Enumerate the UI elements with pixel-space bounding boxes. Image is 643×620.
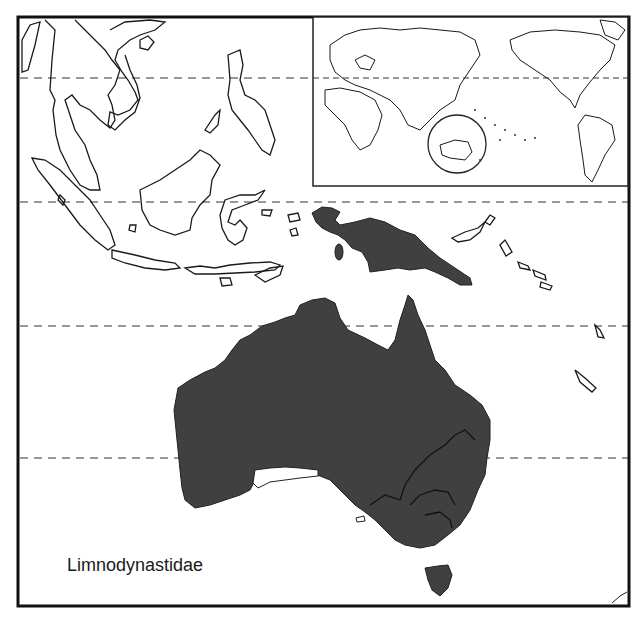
inset-world-map	[313, 17, 628, 186]
kangaroo-island	[356, 516, 365, 522]
family-name-label: Limnodynastidae	[67, 555, 203, 576]
range-australia	[174, 295, 490, 548]
range-island-aru	[335, 244, 343, 260]
distribution-map	[0, 0, 643, 620]
nullarbor-gap	[253, 467, 318, 488]
range-tasmania	[425, 565, 452, 596]
